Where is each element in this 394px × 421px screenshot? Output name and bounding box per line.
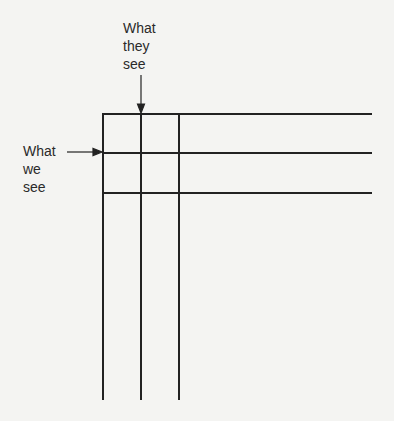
they-see-arrow-head [138, 104, 145, 113]
we-see-arrow-head [93, 149, 102, 156]
grid-diagram [0, 0, 394, 421]
